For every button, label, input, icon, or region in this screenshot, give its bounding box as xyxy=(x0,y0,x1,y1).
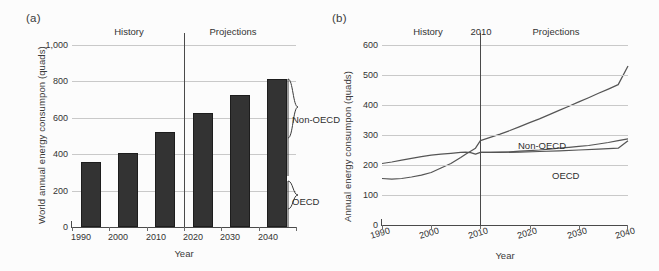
panel-b-ytick-400: 400 xyxy=(334,100,378,110)
bar-1990 xyxy=(81,162,101,227)
panel-a-projections-label: Projections xyxy=(188,26,278,37)
panel-b-projections-label: Projections xyxy=(516,26,596,37)
bar-2000 xyxy=(118,153,138,227)
gridline-500 xyxy=(382,75,628,76)
panel-a-tag: (a) xyxy=(26,12,41,24)
bar-2010 xyxy=(155,132,175,227)
panel-b-ytick-0: 0 xyxy=(334,220,378,230)
gridline-300 xyxy=(382,135,628,136)
panel-b-history-label: History xyxy=(398,26,458,37)
panel-a-xtick-2020: 2020 xyxy=(174,232,212,242)
nonoecd-line xyxy=(382,66,628,179)
panel-b-plot-area xyxy=(382,45,628,225)
panel-a-history-projection-divider xyxy=(184,33,185,227)
panel-b-year-label: 2010 xyxy=(458,26,504,37)
panel-b-xtick-2030: 2030 xyxy=(566,225,588,240)
panel-b-annual-energy-line-chart: (b) Annual energy consumpon (quads) xyxy=(330,0,659,271)
panel-b-year-divider xyxy=(480,33,481,226)
panel-a-history-label: History xyxy=(94,26,164,37)
bar-2020 xyxy=(193,113,213,227)
panel-a-y-axis-title: World annual energy consumpon (quads) xyxy=(36,46,47,224)
panel-b-xtick-2000: 2000 xyxy=(418,225,440,240)
panel-a-plot-area xyxy=(72,45,296,227)
panel-b-xtick-2010: 2010 xyxy=(467,225,489,240)
panel-b-tag: (b) xyxy=(332,12,347,24)
panel-a-ytick-200: 200 xyxy=(18,186,68,196)
gridline-400 xyxy=(382,105,628,106)
xtickmark-5 xyxy=(259,227,260,231)
panel-b-ytick-200: 200 xyxy=(334,160,378,170)
bar-2040 xyxy=(267,79,287,227)
gridline-600 xyxy=(382,45,628,46)
panel-b-ytick-500: 500 xyxy=(334,70,378,80)
xtickmark-3 xyxy=(184,227,185,231)
panel-a-xtick-2010: 2010 xyxy=(137,232,175,242)
panel-b-xtick-2020: 2020 xyxy=(516,225,538,240)
panel-a-ytick-800: 800 xyxy=(18,76,68,86)
panel-b-x-axis-line xyxy=(382,225,628,226)
xtickmark-1 xyxy=(109,227,110,231)
figure-two-panel-energy-charts: (a) World annual energy consumpon (quads… xyxy=(0,0,659,271)
panel-a-oecd-annotation: OECD xyxy=(292,196,319,207)
panel-b-nonoecd-label: Non-OECD xyxy=(518,140,566,151)
panel-b-ytick-600: 600 xyxy=(334,40,378,50)
panel-a-xtick-1990: 1990 xyxy=(62,232,100,242)
panel-a-x-axis-title: Year xyxy=(114,248,254,259)
nonoecd-bracket-icon xyxy=(288,79,298,138)
xtickmark-4 xyxy=(221,227,222,231)
panel-a-ytick-1000: 1,000 xyxy=(18,40,68,50)
panel-a-world-energy-bar-chart: (a) World annual energy consumpon (quads… xyxy=(0,0,330,271)
panel-a-ytick-0: 0 xyxy=(18,222,68,232)
panel-b-x-axis-title: Year xyxy=(435,250,575,261)
gridline-100 xyxy=(382,195,628,196)
panel-b-xtick-2040: 2040 xyxy=(614,225,636,240)
panel-b-oecd-label: OECD xyxy=(552,170,579,181)
panel-b-ytick-100: 100 xyxy=(334,190,378,200)
panel-a-xtick-2040: 2040 xyxy=(249,232,287,242)
panel-a-ytick-400: 400 xyxy=(18,149,68,159)
bar-2030 xyxy=(230,95,250,227)
panel-a-xtick-2030: 2030 xyxy=(211,232,249,242)
panel-a-ytick-600: 600 xyxy=(18,113,68,123)
xtickmark-2 xyxy=(147,227,148,231)
panel-a-xtick-2000: 2000 xyxy=(99,232,137,242)
panel-b-ytick-300: 300 xyxy=(334,130,378,140)
xtickmark-0 xyxy=(72,227,73,231)
gridline-200 xyxy=(382,165,628,166)
